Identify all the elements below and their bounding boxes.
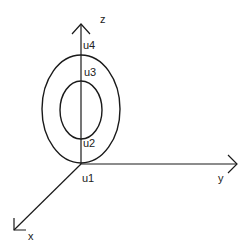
point-label-u1: u1 bbox=[82, 172, 94, 184]
point-label-u4: u4 bbox=[83, 39, 95, 51]
coordinate-diagram: z y x u4 u3 u2 u1 bbox=[0, 0, 252, 249]
x-axis bbox=[14, 164, 81, 230]
y-axis-label: y bbox=[218, 172, 224, 184]
z-axis-label: z bbox=[100, 13, 106, 25]
point-label-u3: u3 bbox=[84, 66, 96, 78]
x-axis-label: x bbox=[28, 230, 34, 242]
point-label-u2: u2 bbox=[83, 137, 95, 149]
